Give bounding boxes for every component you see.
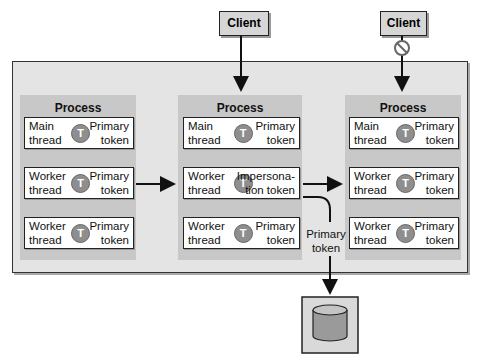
- connector-arrows: [0, 0, 478, 362]
- blocked-icon: [395, 41, 409, 55]
